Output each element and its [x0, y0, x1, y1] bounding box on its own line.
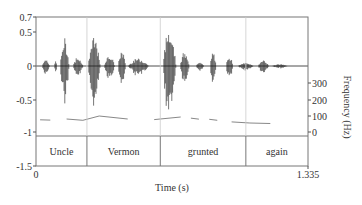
y-tick-label: 0.7 [20, 12, 33, 23]
word-label: Uncle [50, 146, 74, 157]
y-tick-label: -1 [24, 127, 32, 138]
pitch-series [40, 116, 270, 124]
y-tick-label: 0.5 [20, 27, 33, 38]
word-label: Vermon [108, 146, 140, 157]
pitch-line [209, 119, 217, 120]
pitch-line [67, 116, 128, 120]
word-label: again [266, 146, 288, 157]
y-tick-label: -1.5 [16, 161, 32, 172]
y-right-tick-label: 100 [312, 111, 327, 122]
x-axis-label: Time (s) [155, 182, 189, 194]
axes: 0.70.50-0.5-1-1.53002001000Frequency (Hz… [16, 12, 353, 195]
pitch-line [191, 118, 199, 119]
y-tick-label: -0.5 [16, 95, 32, 106]
pitch-line [232, 122, 271, 124]
pitch-line [154, 117, 181, 120]
y-right-axis-label: Frequency (Hz) [341, 75, 353, 138]
y-right-tick-label: 300 [312, 78, 327, 89]
word-label: grunted [188, 146, 219, 157]
x-tick-label: 0 [34, 169, 39, 180]
waveform-series [36, 35, 308, 109]
y-right-tick-label: 0 [312, 127, 317, 138]
y-tick-label: 0 [27, 61, 32, 72]
waveform-pitch-chart: UncleVermongruntedagain 0.70.50-0.5-1-1.… [0, 0, 362, 205]
y-right-tick-label: 200 [312, 95, 327, 106]
x-tick-label: 1.335 [297, 169, 320, 180]
